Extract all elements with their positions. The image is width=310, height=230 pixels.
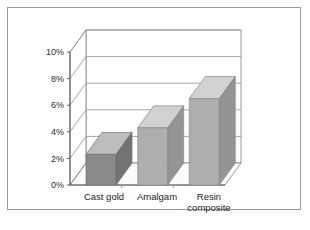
chart-canvas: 0% 2% 4% 6% 8% 10%: [0, 0, 310, 230]
y-tick-label-3: 6%: [51, 100, 64, 110]
bar-chart-3d: 0% 2% 4% 6% 8% 10%: [0, 0, 310, 230]
x-category-label-cast-gold: Cast gold: [84, 191, 124, 202]
bar-resin-composite-front: [189, 99, 219, 185]
bar-amalgam-front: [138, 128, 168, 185]
y-tick-label-2: 4%: [51, 127, 64, 137]
y-tick-label-4: 8%: [51, 74, 64, 84]
chart-figure: 0% 2% 4% 6% 8% 10%: [0, 0, 310, 230]
x-category-label-resin-line2: composite: [187, 202, 230, 213]
y-tick-label-0: 0%: [51, 180, 64, 190]
y-tick-label-1: 2%: [51, 154, 64, 164]
plot-left-wall: [70, 30, 86, 185]
bar-resin-composite[interactable]: [189, 77, 235, 185]
x-category-label-amalgam: Amalgam: [137, 191, 177, 202]
bar-cast-gold-front: [86, 154, 116, 185]
x-category-label-resin-line1: Resin: [197, 191, 221, 202]
y-tick-label-5: 10%: [46, 47, 64, 57]
